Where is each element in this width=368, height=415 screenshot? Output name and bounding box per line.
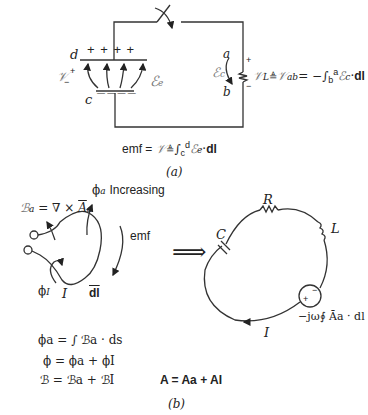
node-d-label: d [70,48,78,61]
current-i-label: I [62,287,67,300]
source-plus: + [70,67,75,76]
b-curl-equation: ℬa = ∇ × Aa [20,202,92,214]
source-b-equation: −jω∮ Āa · dl [298,311,365,322]
plate-bottom-charges: — — — — [97,89,136,97]
implies-arrow: ⟹ [172,240,206,264]
circuit-b [204,206,327,322]
equation-b-total: ℬ = ℬa + ℬI [40,374,114,386]
field-e-label: ℰe [150,74,163,88]
equation-phi-total: ϕ = ϕa + ϕI [43,355,115,367]
node-a-label: a [223,48,230,60]
inductor-l-label: L [331,222,340,235]
phi-a-increasing-label: ϕa Increasing [92,184,165,196]
resistor-r-label: R [263,193,273,206]
source-b-minus: − [312,286,317,295]
source-b-plus: + [303,295,308,304]
load-voltage-equation: 𝒱L≜𝒱ab= −∫baℰc·dl [253,68,365,85]
caption-a: (a) [166,166,183,178]
equation-a-total: A = Aa + AI [160,374,222,386]
emf-equation: emf = 𝒱≜∫cdℰe·dl [122,141,217,158]
node-b-label: b [223,86,231,98]
circuit-current-i-label: I [264,326,269,339]
emf-label: emf [130,230,150,242]
load-minus: − [246,82,251,91]
caption-b: (b) [168,398,185,410]
load-plus: + [246,56,251,65]
equation-phi-a: ϕa = ∫ ℬa · ds [38,334,123,346]
source-minus: − [64,78,69,87]
field-c-label: ℰc [212,66,225,79]
phi-i-label: ϕI [38,285,50,297]
loop-b [24,205,123,285]
plate-top-charges: + + + + [87,43,135,56]
capacitor-c-label: C [216,228,226,241]
node-c-label: c [85,93,92,106]
dl-label: dl [89,287,100,299]
